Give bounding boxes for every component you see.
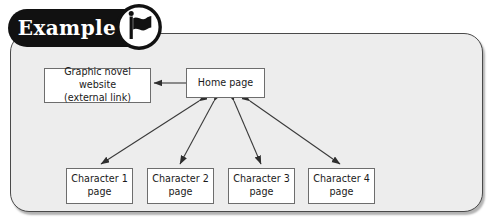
node-external-site-line1: Graphic novel website: [45, 66, 150, 92]
flag-icon: [115, 3, 163, 51]
node-character-3-line1: Character 3: [233, 173, 290, 186]
node-character-1-line2: page: [71, 186, 128, 199]
node-character-3: Character 3 page: [228, 168, 295, 204]
node-character-3-line2: page: [233, 186, 290, 199]
node-home-page: Home page: [186, 68, 265, 98]
node-character-1: Character 1 page: [66, 168, 133, 204]
node-character-2-line2: page: [152, 186, 209, 199]
diagram-canvas: Graphic novel website (external link) Ho…: [0, 0, 493, 224]
node-character-2-line1: Character 2: [152, 173, 209, 186]
node-home-page-label: Home page: [198, 77, 253, 90]
node-external-site: Graphic novel website (external link): [44, 68, 151, 103]
node-character-2: Character 2 page: [147, 168, 214, 204]
node-character-4-line1: Character 4: [313, 173, 370, 186]
node-character-4: Character 4 page: [308, 168, 375, 204]
node-external-site-line2: (external link): [45, 92, 150, 105]
example-badge-label: Example: [8, 9, 126, 47]
node-character-4-line2: page: [313, 186, 370, 199]
node-character-1-line1: Character 1: [71, 173, 128, 186]
